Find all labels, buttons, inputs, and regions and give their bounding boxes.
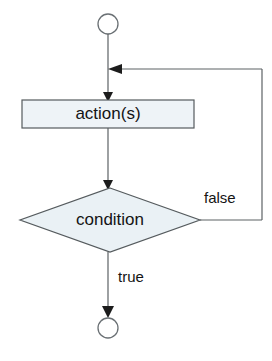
edge-label-false: false (204, 189, 236, 206)
flowchart-canvas: action(s) condition false true (0, 0, 272, 361)
end-terminator-node (98, 318, 118, 338)
edge-label-true: true (118, 268, 144, 285)
start-terminator-node (98, 14, 118, 34)
flowchart-diagram: action(s) condition false true (0, 0, 272, 361)
arrowhead-into-end (102, 306, 114, 318)
action-node-label: action(s) (75, 104, 140, 123)
arrowhead-loopback (108, 64, 122, 74)
condition-node-label: condition (76, 210, 144, 229)
